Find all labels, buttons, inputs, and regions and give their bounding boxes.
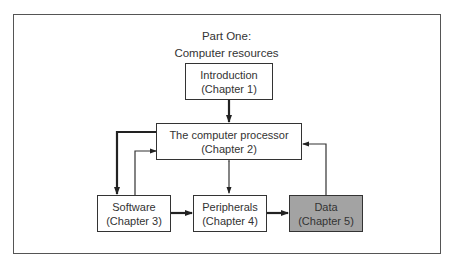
node-sublabel: (Chapter 1) xyxy=(201,82,257,96)
edge-data-processor xyxy=(303,144,326,195)
node-label: The computer processor xyxy=(169,128,288,142)
node-label: Software xyxy=(112,200,155,214)
edge-software-processor xyxy=(135,151,156,195)
node-computer-processor: The computer processor (Chapter 2) xyxy=(156,123,302,160)
node-sublabel: (Chapter 4) xyxy=(202,214,258,228)
node-label: Peripherals xyxy=(202,200,258,214)
node-sublabel: (Chapter 2) xyxy=(201,142,257,156)
node-data: Data (Chapter 5) xyxy=(289,195,363,232)
edge-processor-software xyxy=(117,132,157,194)
node-sublabel: (Chapter 5) xyxy=(298,214,354,228)
node-peripherals: Peripherals (Chapter 4) xyxy=(193,195,267,232)
node-software: Software (Chapter 3) xyxy=(97,195,171,232)
node-label: Data xyxy=(314,200,337,214)
node-label: Introduction xyxy=(200,68,257,82)
node-introduction: Introduction (Chapter 1) xyxy=(185,63,273,100)
node-sublabel: (Chapter 3) xyxy=(106,214,162,228)
